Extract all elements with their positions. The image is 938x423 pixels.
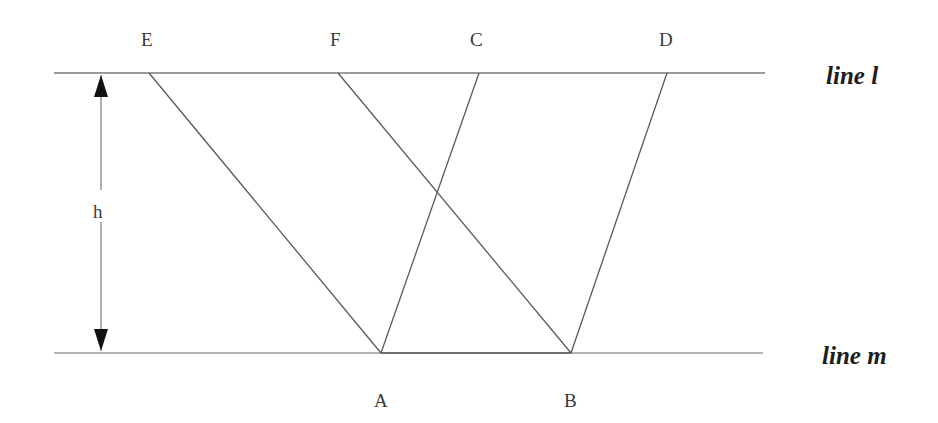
point-label-B: B: [564, 390, 577, 412]
height-label-h: h: [93, 201, 103, 223]
point-label-C: C: [470, 29, 483, 51]
segment-FB: [338, 73, 571, 353]
segments-group: [149, 73, 667, 353]
geometry-diagram: E F C D A B line l line m h: [0, 0, 938, 423]
point-label-A: A: [374, 390, 388, 412]
line-m-label: line m: [822, 342, 887, 370]
point-label-E: E: [141, 29, 153, 51]
point-label-F: F: [330, 29, 341, 51]
segment-DB: [571, 73, 667, 353]
segment-CA: [381, 73, 479, 353]
arrowhead-up-icon: [94, 75, 108, 97]
arrowhead-down-icon: [94, 329, 108, 351]
segment-EA: [149, 73, 381, 353]
diagram-canvas: [0, 0, 938, 423]
line-l-label: line l: [826, 62, 878, 90]
point-label-D: D: [659, 29, 673, 51]
parallel-lines-group: [54, 73, 765, 353]
